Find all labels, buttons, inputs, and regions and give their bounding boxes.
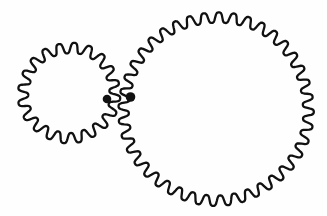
small-gear-mark-dot — [103, 95, 112, 104]
large-gear — [119, 12, 314, 206]
gear-diagram — [0, 0, 327, 216]
small-gear — [18, 43, 120, 143]
large-gear-mark-dot — [126, 92, 136, 102]
gears-svg — [0, 0, 327, 216]
